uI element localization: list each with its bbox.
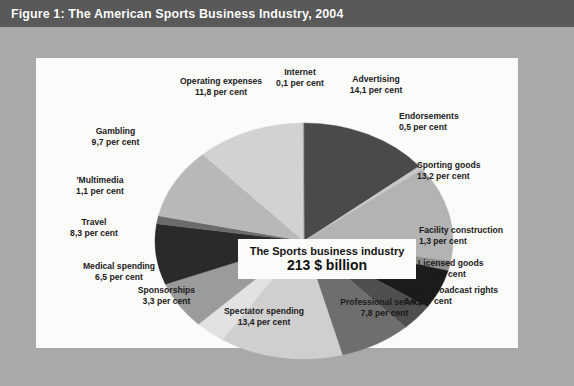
center-caption-box: The Sports business industry 213 $ billi… [238, 239, 416, 279]
label-travel-name: Travel [54, 217, 134, 228]
label-travel: Travel 8,3 per cent [54, 217, 134, 239]
label-multimedia: 'Multimedia 1,1 per cent [55, 175, 145, 197]
label-sponsorships: Sponsorships 3,3 per cent [119, 285, 214, 307]
label-facility-construction-value: 1,3 per cent [419, 236, 539, 247]
label-licensed-goods: Licensed goods 5,4 per cent [418, 258, 528, 280]
label-operating-expenses: Operating expenses 11,8 per cent [166, 76, 276, 98]
label-travel-value: 8,3 per cent [54, 228, 134, 239]
label-endorsements-name: Endorsements [399, 111, 514, 122]
label-sponsorships-value: 3,3 per cent [119, 296, 214, 307]
label-sporting-goods-value: 13,2 per cent [417, 171, 527, 182]
label-facility-construction-name: Facility construction [419, 225, 539, 236]
label-gambling: Gambling 9,7 per cent [68, 126, 163, 148]
page-title: Figure 1: The American Sports Business I… [0, 7, 343, 21]
label-media-broadcast-rights-name: Media broadcast rights [404, 285, 529, 296]
label-advertising: Advertising 14,1 per cent [331, 74, 421, 96]
label-sporting-goods: Sporting goods 13,2 per cent [417, 160, 527, 182]
label-advertising-name: Advertising [331, 74, 421, 85]
label-professional-services-name: Professional services [327, 297, 442, 308]
label-multimedia-value: 1,1 per cent [55, 186, 145, 197]
figure-title-bar: Figure 1: The American Sports Business I… [0, 0, 574, 27]
label-sponsorships-name: Sponsorships [119, 285, 214, 296]
label-operating-expenses-value: 11,8 per cent [166, 87, 276, 98]
label-operating-expenses-name: Operating expenses [166, 76, 276, 87]
label-gambling-value: 9,7 per cent [68, 137, 163, 148]
chart-panel: The Sports business industry 213 $ billi… [36, 58, 518, 348]
label-professional-services: Professional services 7,8 per cent [327, 297, 442, 319]
label-sporting-goods-name: Sporting goods [417, 160, 527, 171]
label-multimedia-name: 'Multimedia [55, 175, 145, 186]
label-medical-spending: Medical spending 6,5 per cent [64, 261, 174, 283]
label-licensed-goods-value: 5,4 per cent [418, 269, 528, 280]
center-caption-value: 213 $ billion [287, 258, 367, 274]
label-spectator-spending-value: 13,4 per cent [209, 317, 319, 328]
figure-container: Figure 1: The American Sports Business I… [0, 0, 574, 386]
label-professional-services-value: 7,8 per cent [327, 308, 442, 319]
center-caption-title: The Sports business industry [250, 245, 405, 257]
label-spectator-spending: Spectator spending 13,4 per cent [209, 306, 319, 328]
label-licensed-goods-name: Licensed goods [418, 258, 528, 269]
label-medical-spending-value: 6,5 per cent [64, 272, 174, 283]
label-gambling-name: Gambling [68, 126, 163, 137]
label-facility-construction: Facility construction 1,3 per cent [419, 225, 539, 247]
label-medical-spending-name: Medical spending [64, 261, 174, 272]
label-endorsements: Endorsements 0,5 per cent [399, 111, 514, 133]
label-spectator-spending-name: Spectator spending [209, 306, 319, 317]
label-endorsements-value: 0,5 per cent [399, 122, 514, 133]
label-advertising-value: 14,1 per cent [331, 85, 421, 96]
